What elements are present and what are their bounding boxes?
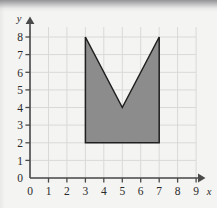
x-tick-label: 4 [101,185,107,197]
y-tick-label: 2 [17,137,23,149]
coordinate-plane: 0 1 2 3 4 5 6 7 8 9 0 1 2 3 4 5 6 7 8 x … [0,0,217,208]
x-axis-label: x [206,186,212,197]
y-tick-label: 1 [17,155,23,167]
x-tick-label: 5 [119,185,125,197]
y-axis-tick-labels: 0 1 2 3 4 5 6 7 8 [17,31,23,184]
y-tick-label: 8 [17,31,23,43]
x-tick-label: 7 [156,185,162,197]
x-tick-label: 2 [64,185,70,197]
y-axis-label: y [16,13,22,24]
y-tick-label: 4 [17,102,23,114]
y-tick-label: 3 [17,119,23,131]
y-tick-label: 0 [17,172,23,184]
y-tick-label: 6 [17,67,23,79]
x-tick-label: 9 [193,185,199,197]
graph-screenshot: 0 1 2 3 4 5 6 7 8 9 0 1 2 3 4 5 6 7 8 x … [0,0,217,208]
y-tick-label: 5 [17,84,23,96]
x-tick-label: 0 [27,185,33,197]
x-tick-label: 6 [138,185,144,197]
x-tick-label: 8 [175,185,181,197]
y-tick-label: 7 [17,49,23,61]
x-tick-label: 1 [46,185,52,197]
x-tick-label: 3 [83,185,89,197]
